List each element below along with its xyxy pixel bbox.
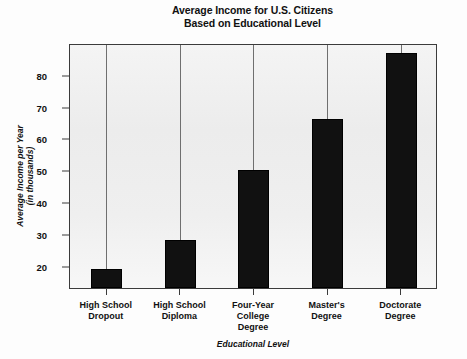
bar-group[interactable] xyxy=(144,45,218,288)
bars-layer xyxy=(70,45,436,288)
bar-stem-line xyxy=(180,45,181,242)
x-category-label-line: Degree xyxy=(210,322,296,333)
bar-stem-line xyxy=(327,45,328,121)
y-tick-label: 20 xyxy=(7,261,47,272)
y-tick-label: 60 xyxy=(7,134,47,145)
y-tick-label: 80 xyxy=(7,70,47,81)
y-tick-mark xyxy=(62,234,69,235)
plot-area xyxy=(69,44,437,289)
y-tick-mark xyxy=(62,203,69,204)
chart-title-line-1: Average Income for U.S. Citizens xyxy=(172,4,333,16)
x-tick-mark xyxy=(106,289,107,295)
bar[interactable] xyxy=(312,119,343,288)
bar[interactable] xyxy=(91,269,122,288)
chart-title-line-2: Based on Educational Level xyxy=(60,17,445,30)
y-tick-mark xyxy=(62,75,69,76)
bar-group[interactable] xyxy=(291,45,365,288)
chart-title: Average Income for U.S. Citizens Based o… xyxy=(60,4,445,30)
bar[interactable] xyxy=(238,170,269,288)
x-tick-mark xyxy=(253,289,254,295)
bar-stem-line xyxy=(106,45,107,271)
x-tick-mark xyxy=(179,289,180,295)
y-tick-label: 70 xyxy=(7,102,47,113)
bar-group[interactable] xyxy=(364,45,437,288)
y-tick-mark xyxy=(62,266,69,267)
y-tick-mark xyxy=(62,139,69,140)
x-tick-mark xyxy=(327,289,328,295)
x-category-label: DoctorateDegree xyxy=(357,300,443,322)
y-tick-mark xyxy=(62,107,69,108)
y-tick-label: 50 xyxy=(7,166,47,177)
x-axis-categories: High SchoolDropoutHigh SchoolDiplomaFour… xyxy=(69,300,437,340)
x-category-label-line: Degree xyxy=(357,311,443,322)
y-axis: Average Income per Year (in thousands) 2… xyxy=(0,0,69,359)
x-tick-mark xyxy=(400,289,401,295)
y-tick-mark xyxy=(62,171,69,172)
x-axis-ticks xyxy=(69,289,437,297)
chart-figure: Average Income for U.S. Citizens Based o… xyxy=(0,0,467,359)
y-tick-label: 30 xyxy=(7,229,47,240)
bar[interactable] xyxy=(165,240,196,288)
x-category-label-line: Doctorate xyxy=(357,300,443,311)
x-axis-label: Educational Level xyxy=(69,339,437,349)
bar-group[interactable] xyxy=(217,45,291,288)
y-tick-label: 40 xyxy=(7,198,47,209)
bar-stem-line xyxy=(253,45,254,172)
bar[interactable] xyxy=(386,53,417,288)
bar-group[interactable] xyxy=(70,45,144,288)
